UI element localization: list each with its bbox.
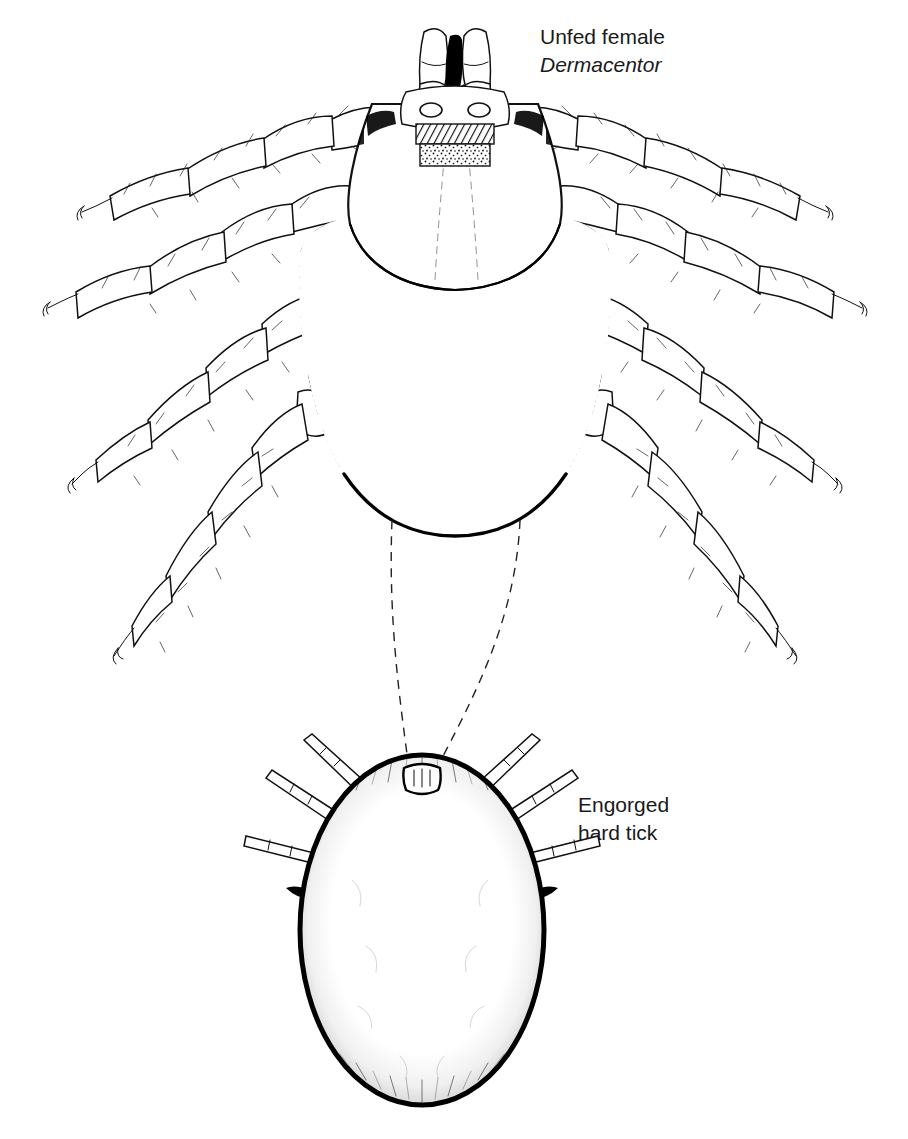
- figure-root: Unfed female Dermacentor Engorged hard t…: [0, 0, 908, 1139]
- porose-area-right: [468, 103, 490, 117]
- label-unfed-line2: Dermacentor: [540, 53, 662, 76]
- porose-area-left: [420, 103, 442, 117]
- label-unfed-line1: Unfed female: [540, 25, 665, 48]
- tick-illustration-plate: Unfed female Dermacentor Engorged hard t…: [0, 0, 908, 1139]
- engorged-capitulum: [403, 764, 440, 794]
- label-engorged-line1: Engorged: [578, 793, 669, 816]
